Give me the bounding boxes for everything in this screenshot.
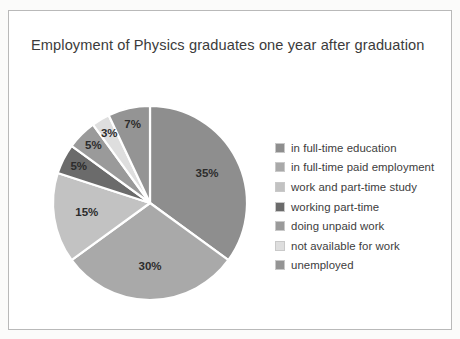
legend-item[interactable]: doing unpaid work <box>275 216 455 236</box>
pie-slice-label: 7% <box>124 118 141 130</box>
legend-item[interactable]: work and part-time study <box>275 177 455 197</box>
pie-slice-label: 5% <box>70 160 87 172</box>
legend-item-label: doing unpaid work <box>291 220 384 232</box>
legend-item-label: work and part-time study <box>291 181 417 193</box>
pie-slice-label: 30% <box>138 260 161 272</box>
legend-item[interactable]: not available for work <box>275 236 455 256</box>
legend-item[interactable]: working part-time <box>275 197 455 217</box>
legend-item-label: not available for work <box>291 240 400 252</box>
legend-color-swatch <box>275 241 285 251</box>
legend-color-swatch <box>275 202 285 212</box>
legend-color-swatch <box>275 143 285 153</box>
chart-title: Employment of Physics graduates one year… <box>31 37 451 53</box>
pie-slice-label: 15% <box>75 206 98 218</box>
legend-item[interactable]: in full-time education <box>275 138 455 158</box>
legend-color-swatch <box>275 162 285 172</box>
pie-slice-label: 35% <box>196 167 219 179</box>
pie-slice-label: 3% <box>101 127 118 139</box>
pie-slice-label: 5% <box>85 139 102 151</box>
legend-item[interactable]: unemployed <box>275 256 455 276</box>
legend-color-swatch <box>275 221 285 231</box>
chart-screenshot: Employment of Physics graduates one year… <box>0 0 460 339</box>
legend-color-swatch <box>275 182 285 192</box>
legend-color-swatch <box>275 260 285 270</box>
pie-chart: 35%30%15%5%5%3%7% <box>45 98 255 308</box>
legend-item-label: working part-time <box>291 201 379 213</box>
legend-item-label: unemployed <box>291 259 354 271</box>
legend-item-label: in full-time education <box>291 142 397 154</box>
chart-panel: Employment of Physics graduates one year… <box>8 10 452 330</box>
legend-item[interactable]: in full-time paid employment <box>275 158 455 178</box>
legend: in full-time educationin full-time paid … <box>275 138 455 275</box>
pie-chart-svg: 35%30%15%5%5%3%7% <box>45 98 255 308</box>
legend-item-label: in full-time paid employment <box>291 161 434 173</box>
